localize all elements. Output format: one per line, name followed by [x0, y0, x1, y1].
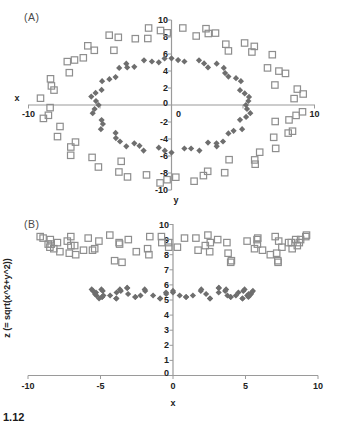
marker-square	[85, 235, 91, 241]
x-axis-title: x	[170, 398, 175, 408]
marker-square	[289, 128, 295, 134]
marker-diamond	[123, 143, 129, 149]
marker-diamond	[175, 57, 181, 63]
y-tick-label: -4	[160, 134, 168, 144]
marker-square	[193, 33, 199, 39]
marker-square	[205, 30, 211, 36]
marker-diamond	[231, 128, 237, 134]
marker-square	[286, 117, 292, 123]
marker-diamond	[99, 87, 105, 93]
marker-square	[276, 68, 282, 74]
marker-square	[173, 174, 179, 180]
marker-square	[212, 30, 218, 36]
marker-diamond	[106, 76, 112, 82]
marker-square	[145, 25, 151, 31]
marker-square	[132, 36, 138, 42]
marker-diamond	[124, 285, 130, 291]
marker-diamond	[113, 295, 119, 301]
y-tick-label: 4	[164, 310, 169, 320]
marker-diamond	[225, 130, 231, 136]
marker-square	[51, 87, 57, 93]
y-tick-label: 3	[164, 325, 169, 335]
marker-square	[133, 249, 139, 255]
marker-square	[273, 145, 279, 151]
marker-diamond	[203, 291, 209, 297]
marker-square	[125, 236, 131, 242]
marker-square	[271, 134, 277, 140]
marker-square	[111, 47, 117, 53]
marker-square	[272, 118, 278, 124]
marker-diamond	[137, 292, 143, 298]
marker-square	[195, 247, 201, 253]
marker-square	[223, 41, 229, 47]
marker-square	[107, 232, 113, 238]
marker-square	[205, 232, 211, 238]
marker-square	[193, 235, 199, 241]
figure-number-cropped: 1.12	[3, 411, 24, 423]
marker-square	[48, 83, 54, 89]
marker-square	[72, 242, 78, 248]
marker-diamond	[201, 60, 207, 66]
marker-square	[85, 43, 91, 49]
marker-diamond	[237, 87, 243, 93]
marker-square	[269, 52, 275, 58]
marker-square	[66, 250, 72, 256]
marker-square	[225, 48, 231, 54]
x-tick-label: 0	[176, 109, 181, 119]
marker-diamond	[188, 145, 194, 151]
marker-square	[275, 258, 281, 264]
marker-diamond	[205, 64, 211, 70]
marker-diamond	[168, 55, 174, 61]
marker-diamond	[88, 94, 94, 100]
y-tick-label: 7	[164, 265, 169, 275]
scatter-plot-a: -100101086420-2-4-6-8-10xy	[0, 0, 342, 210]
marker-square	[224, 239, 230, 245]
marker-diamond	[116, 65, 122, 71]
marker-square	[225, 250, 231, 256]
marker-diamond	[205, 140, 211, 146]
marker-diamond	[196, 57, 202, 63]
marker-square	[118, 158, 124, 164]
marker-square	[68, 152, 74, 158]
marker-diamond	[216, 289, 222, 295]
marker-diamond	[247, 110, 253, 116]
marker-square	[143, 172, 149, 178]
marker-square	[215, 236, 221, 242]
marker-diamond	[246, 94, 252, 100]
marker-diamond	[131, 64, 137, 70]
marker-square	[275, 259, 281, 265]
y-axis-title: z (= sqrt(x^2+y^2))	[2, 258, 12, 338]
marker-diamond	[113, 74, 119, 80]
panel-b-label: (B)	[24, 218, 40, 230]
marker-diamond	[237, 117, 243, 123]
marker-diamond	[183, 294, 189, 300]
y-tick-label: 6	[164, 280, 169, 290]
marker-diamond	[181, 145, 187, 151]
marker-diamond	[149, 58, 155, 64]
marker-square	[54, 239, 60, 245]
y-tick-label: 4	[163, 66, 168, 76]
marker-diamond	[177, 292, 183, 298]
marker-diamond	[207, 295, 213, 301]
marker-square	[174, 244, 180, 250]
marker-square	[116, 169, 122, 175]
marker-square	[106, 32, 112, 38]
marker-square	[272, 82, 278, 88]
series-diamonds	[89, 285, 256, 302]
y-tick-label: 2	[164, 340, 169, 350]
marker-square	[119, 259, 125, 265]
marker-diamond	[156, 59, 162, 65]
x-tick-label: -10	[21, 381, 34, 391]
marker-diamond	[93, 90, 99, 96]
marker-square	[241, 40, 247, 46]
marker-diamond	[181, 58, 187, 64]
x-tick-label: 10	[309, 109, 319, 119]
marker-diamond	[141, 57, 147, 63]
marker-square	[244, 238, 250, 244]
marker-diamond	[239, 295, 245, 301]
marker-diamond	[168, 150, 174, 156]
marker-diamond	[243, 114, 249, 120]
marker-square	[96, 238, 102, 244]
x-tick-label: 10	[313, 381, 323, 391]
marker-diamond	[117, 138, 123, 144]
